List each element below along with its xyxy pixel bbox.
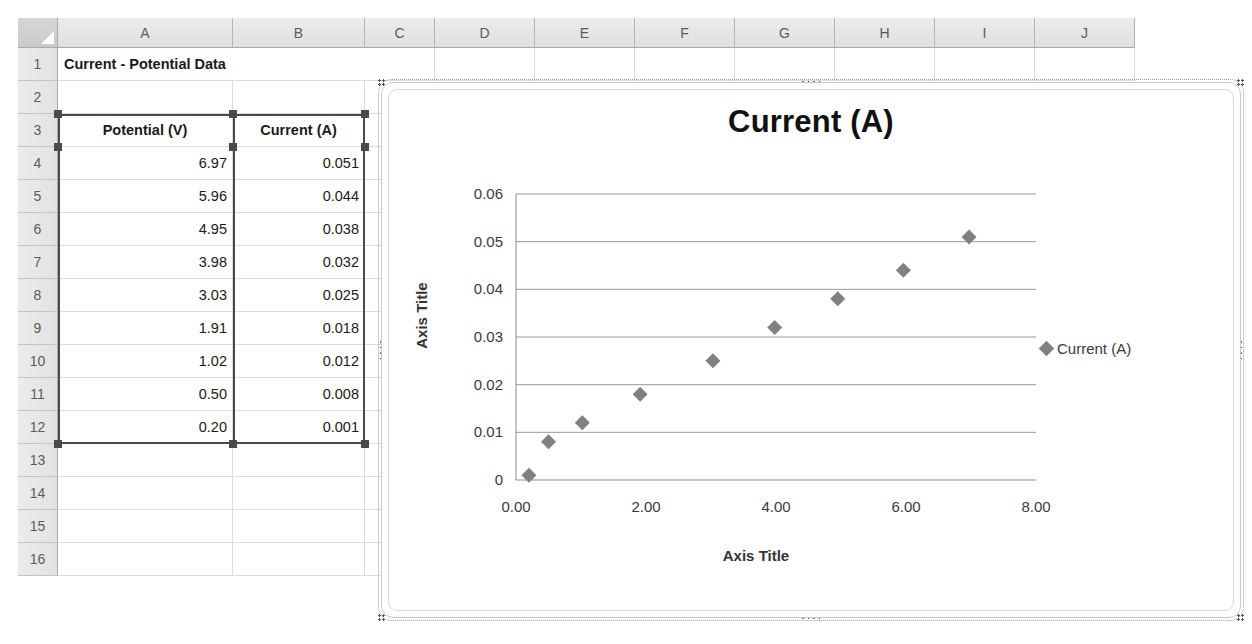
svg-text:6.00: 6.00 [891,498,920,515]
table-row: Current - Potential Data [58,48,1135,81]
cell-b14[interactable] [233,477,365,510]
cell-d1[interactable] [435,48,535,81]
row-header-15[interactable]: 15 [18,510,58,543]
cell-a8[interactable]: 3.03 [58,279,233,312]
column-header-c[interactable]: C [365,18,435,48]
x-axis-title: Axis Title [476,547,1036,564]
row-header-3[interactable]: 3 [18,114,58,147]
cell-b11[interactable]: 0.008 [233,378,365,411]
svg-text:4.00: 4.00 [761,498,790,515]
row-header-14[interactable]: 14 [18,477,58,510]
cell-a2[interactable] [58,81,233,114]
cell-a15[interactable] [58,510,233,543]
cell-b13[interactable] [233,444,365,477]
cell-b6[interactable]: 0.038 [233,213,365,246]
selection-handle-mid-right[interactable] [361,143,369,151]
row-header-1[interactable]: 1 [18,48,58,81]
row-header-11[interactable]: 11 [18,378,58,411]
cell-f1[interactable] [635,48,735,81]
column-header-h[interactable]: H [835,18,935,48]
cell-a12[interactable]: 0.20 [58,411,233,444]
svg-text:0.01: 0.01 [474,423,503,440]
selection-handle-bottom-left[interactable] [54,440,62,448]
column-header-b[interactable]: B [233,18,365,48]
cell-a14[interactable] [58,477,233,510]
row-header-13[interactable]: 13 [18,444,58,477]
row-header-12[interactable]: 12 [18,411,58,444]
selection-handle-mid-left[interactable] [54,143,62,151]
column-header-e[interactable]: E [535,18,635,48]
cell-b5[interactable]: 0.044 [233,180,365,213]
cell-b8[interactable]: 0.025 [233,279,365,312]
svg-text:0.00: 0.00 [501,498,530,515]
row-header-16[interactable]: 16 [18,543,58,576]
cell-a9[interactable]: 1.91 [58,312,233,345]
selection-handle-top-left[interactable] [54,110,62,118]
cell-a1[interactable]: Current - Potential Data [58,48,365,81]
svg-text:0.06: 0.06 [474,185,503,202]
cell-b9[interactable]: 0.018 [233,312,365,345]
cell-a5[interactable]: 5.96 [58,180,233,213]
row-header-10[interactable]: 10 [18,345,58,378]
embedded-chart-object[interactable]: Current (A) 00.010.020.030.040.050.060.0… [381,82,1241,618]
cell-b2[interactable] [233,81,365,114]
cell-j1[interactable] [1035,48,1135,81]
data-point [541,434,556,449]
selection-handle-mid-center[interactable] [229,143,237,151]
svg-text:0.03: 0.03 [474,328,503,345]
cell-b12[interactable]: 0.001 [233,411,365,444]
column-header-j[interactable]: J [1035,18,1135,48]
column-header-i[interactable]: I [935,18,1035,48]
data-point [767,320,782,335]
svg-text:0.05: 0.05 [474,233,503,250]
cell-b10[interactable]: 0.012 [233,345,365,378]
y-axis-title: Axis Title [413,256,430,376]
row-header-5[interactable]: 5 [18,180,58,213]
selection-handle-bottom-right[interactable] [361,440,369,448]
row-header-7[interactable]: 7 [18,246,58,279]
data-point [705,353,720,368]
selection-handle-top-mid[interactable] [229,110,237,118]
cell-b16[interactable] [233,543,365,576]
cell-a6[interactable]: 4.95 [58,213,233,246]
select-all-corner[interactable] [18,18,58,48]
cell-a7[interactable]: 3.98 [58,246,233,279]
cell-b3[interactable]: Current (A) [233,114,365,147]
column-header-g[interactable]: G [735,18,835,48]
column-header-f[interactable]: F [635,18,735,48]
column-headers: ABCDEFGHIJ [58,18,1135,48]
cell-g1[interactable] [735,48,835,81]
data-point [575,415,590,430]
cell-a3[interactable]: Potential (V) [58,114,233,147]
cell-a4[interactable]: 6.97 [58,147,233,180]
column-header-a[interactable]: A [58,18,233,48]
cell-h1[interactable] [835,48,935,81]
svg-text:0.04: 0.04 [474,280,503,297]
cell-b15[interactable] [233,510,365,543]
chart-legend[interactable]: Current (A) [1041,340,1131,357]
cell-a11[interactable]: 0.50 [58,378,233,411]
select-all-triangle-icon [41,31,54,44]
cell-c1[interactable] [365,48,435,81]
row-header-9[interactable]: 9 [18,312,58,345]
cell-e1[interactable] [535,48,635,81]
cell-a10[interactable]: 1.02 [58,345,233,378]
selection-handle-bottom-mid[interactable] [229,440,237,448]
cell-i1[interactable] [935,48,1035,81]
row-header-6[interactable]: 6 [18,213,58,246]
cell-a13[interactable] [58,444,233,477]
data-point [633,387,648,402]
svg-text:8.00: 8.00 [1021,498,1050,515]
cell-b7[interactable]: 0.032 [233,246,365,279]
svg-text:0.02: 0.02 [474,376,503,393]
cell-b4[interactable]: 0.051 [233,147,365,180]
row-header-4[interactable]: 4 [18,147,58,180]
legend-label: Current (A) [1057,340,1131,357]
legend-diamond-icon [1039,341,1055,357]
selection-handle-top-right[interactable] [361,110,369,118]
row-header-2[interactable]: 2 [18,81,58,114]
cell-selection-divider [233,114,235,444]
column-header-d[interactable]: D [435,18,535,48]
row-header-8[interactable]: 8 [18,279,58,312]
cell-a16[interactable] [58,543,233,576]
